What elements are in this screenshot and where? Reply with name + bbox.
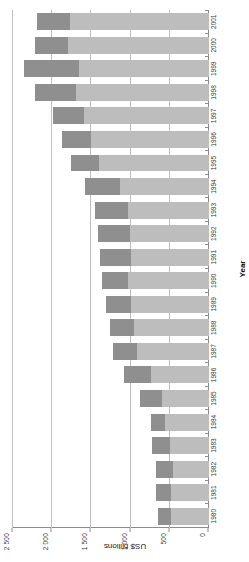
value-tick-label: 0 (199, 533, 206, 537)
bar-segment-base[interactable] (162, 390, 209, 407)
bar-segment-base[interactable] (128, 272, 209, 289)
bar-segment-base[interactable] (76, 84, 209, 101)
bar-segment-top[interactable] (102, 272, 128, 289)
stacked-bar[interactable] (113, 343, 209, 360)
category-slot: 1993 (209, 198, 231, 222)
value-tick-mark (12, 528, 13, 532)
category-tick-label: 1991 (210, 250, 217, 264)
category-slot: 1996 (209, 128, 231, 152)
stacked-bar[interactable] (95, 202, 209, 219)
bar-segment-base[interactable] (128, 202, 209, 219)
category-tick-label: 1983 (210, 438, 217, 452)
stacked-bar[interactable] (158, 508, 209, 525)
bar-segment-base[interactable] (120, 178, 209, 195)
stacked-bar[interactable] (110, 319, 209, 336)
category-tick-label: 1987 (210, 344, 217, 358)
bar-slot (13, 481, 209, 505)
stacked-bar[interactable] (100, 249, 209, 266)
stacked-bar[interactable] (35, 84, 209, 101)
bar-segment-base[interactable] (68, 37, 209, 54)
bar-slot (13, 387, 209, 411)
bar-segment-base[interactable] (134, 319, 209, 336)
category-tick-mark (205, 56, 209, 57)
category-tick-mark (205, 150, 209, 151)
category-tick-label: 1980 (210, 509, 217, 523)
category-tick-mark (205, 480, 209, 481)
bar-segment-top[interactable] (156, 484, 171, 501)
category-tick-mark (205, 244, 209, 245)
stacked-bar[interactable] (151, 414, 209, 431)
bar-segment-top[interactable] (85, 178, 120, 195)
category-slot: 1990 (209, 269, 231, 293)
bar-slot (13, 434, 209, 458)
stacked-bar[interactable] (98, 225, 209, 242)
stacked-bar[interactable] (71, 155, 209, 172)
bar-segment-top[interactable] (158, 508, 171, 525)
stacked-bar[interactable] (106, 296, 209, 313)
bar-segment-base[interactable] (171, 484, 209, 501)
stacked-bar[interactable] (35, 37, 209, 54)
bar-segment-top[interactable] (35, 37, 68, 54)
category-tick-mark (205, 386, 209, 387)
category-tick-mark (205, 103, 209, 104)
bar-segment-top[interactable] (35, 84, 76, 101)
stacked-bar-chart-figure: US$ billions 05001 0001 5002 0002 500 19… (0, 0, 249, 562)
category-tick-mark (205, 80, 209, 81)
bar-segment-top[interactable] (95, 202, 129, 219)
bar-segment-top[interactable] (62, 131, 91, 148)
bar-segment-top[interactable] (37, 13, 71, 30)
stacked-bar[interactable] (152, 437, 209, 454)
bar-segment-top[interactable] (113, 343, 137, 360)
bar-segment-top[interactable] (53, 107, 84, 124)
plot-area (13, 10, 209, 528)
bar-segment-top[interactable] (98, 225, 129, 242)
value-tick-label: 1 000 (120, 533, 127, 550)
stacked-bar[interactable] (24, 60, 209, 77)
bar-segment-top[interactable] (124, 366, 151, 383)
value-tick-label: 2 500 (3, 533, 10, 550)
bar-segment-base[interactable] (131, 296, 209, 313)
bar-segment-base[interactable] (79, 60, 209, 77)
stacked-bar[interactable] (37, 13, 209, 30)
stacked-bar[interactable] (62, 131, 209, 148)
category-slot: 1988 (209, 316, 231, 340)
stacked-bar[interactable] (102, 272, 209, 289)
bar-segment-base[interactable] (171, 508, 209, 525)
bar-segment-top[interactable] (151, 414, 166, 431)
bar-segment-base[interactable] (84, 107, 209, 124)
bar-slot (13, 457, 209, 481)
category-tick-mark (205, 292, 209, 293)
stacked-bar[interactable] (156, 461, 209, 478)
bar-segment-base[interactable] (137, 343, 209, 360)
bar-segment-base[interactable] (165, 414, 209, 431)
stacked-bar[interactable] (124, 366, 209, 383)
bar-segment-base[interactable] (99, 155, 209, 172)
bar-segment-top[interactable] (106, 296, 131, 313)
bar-segment-base[interactable] (70, 13, 209, 30)
stacked-bar[interactable] (156, 484, 209, 501)
category-tick-mark (205, 127, 209, 128)
category-tick-mark (205, 409, 209, 410)
stacked-bar[interactable] (140, 390, 209, 407)
bar-segment-base[interactable] (170, 437, 209, 454)
stacked-bar[interactable] (53, 107, 209, 124)
category-tick-label: 1997 (210, 109, 217, 123)
stacked-bar[interactable] (85, 178, 209, 195)
category-tick-mark (205, 362, 209, 363)
value-tick-label: 500 (159, 533, 166, 544)
bar-segment-top[interactable] (100, 249, 131, 266)
bar-segment-base[interactable] (151, 366, 209, 383)
bar-segment-top[interactable] (110, 319, 134, 336)
bar-segment-top[interactable] (71, 155, 99, 172)
bar-segment-top[interactable] (152, 437, 170, 454)
bar-slot (13, 410, 209, 434)
bar-segment-base[interactable] (130, 225, 209, 242)
bar-segment-top[interactable] (140, 390, 162, 407)
category-tick-mark (205, 197, 209, 198)
bar-segment-top[interactable] (156, 461, 173, 478)
bar-segment-base[interactable] (173, 461, 209, 478)
bar-segment-base[interactable] (91, 131, 209, 148)
bar-slot (13, 57, 209, 81)
bar-segment-base[interactable] (131, 249, 209, 266)
bar-segment-top[interactable] (24, 60, 79, 77)
